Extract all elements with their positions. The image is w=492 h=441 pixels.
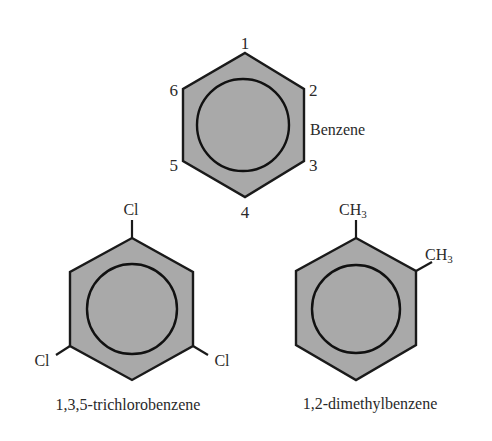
dimethylbenzene-caption: 1,2-dimethylbenzene	[303, 395, 438, 413]
bond-ch3-right	[416, 262, 432, 271]
position-number-2: 2	[309, 81, 318, 100]
position-number-3: 3	[309, 156, 318, 175]
bond-cl-left	[56, 346, 70, 355]
substituent-cl-right: Cl	[214, 352, 230, 369]
dimethylbenzene-molecule: CH3 CH3 1,2-dimethylbenzene	[296, 201, 453, 413]
trichlorobenzene-ring-hexagon	[70, 238, 193, 380]
position-number-6: 6	[170, 81, 179, 100]
substituent-ch3-top: CH3	[339, 201, 367, 220]
trichlorobenzene-caption: 1,3,5-trichlorobenzene	[56, 396, 201, 413]
bond-cl-right	[193, 346, 208, 355]
trichlorobenzene-molecule: Cl Cl Cl 1,3,5-trichlorobenzene	[34, 201, 230, 413]
benzene-label: Benzene	[310, 121, 365, 138]
substituent-ch3-right: CH3	[425, 246, 453, 265]
dimethylbenzene-ring-hexagon	[296, 238, 416, 380]
position-number-4: 4	[241, 203, 250, 222]
position-number-5: 5	[170, 156, 179, 175]
position-number-1: 1	[241, 34, 250, 53]
benzene-diagram: 1 2 3 4 5 6 Benzene Cl Cl Cl 1,3,5-trich…	[0, 0, 492, 441]
benzene-molecule: 1 2 3 4 5 6 Benzene	[170, 34, 366, 222]
substituent-cl-top: Cl	[123, 201, 139, 218]
benzene-ring-hexagon	[183, 53, 304, 197]
substituent-cl-left: Cl	[34, 352, 50, 369]
